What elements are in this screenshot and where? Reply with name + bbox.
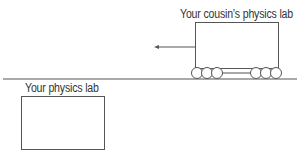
your-lab-label: Your physics lab [25, 81, 99, 95]
wheel [212, 68, 223, 79]
motion-arrow-icon [154, 45, 195, 49]
relative-motion-diagram [0, 0, 305, 157]
wheel [261, 68, 272, 79]
wheel [251, 68, 262, 79]
cousin-lab-box [196, 23, 279, 69]
wheel [202, 68, 213, 79]
cousin-lab-label: Your cousin’s physics lab [180, 7, 293, 21]
wheel [271, 68, 282, 79]
wheel [192, 68, 203, 79]
your-lab-box [22, 97, 105, 150]
